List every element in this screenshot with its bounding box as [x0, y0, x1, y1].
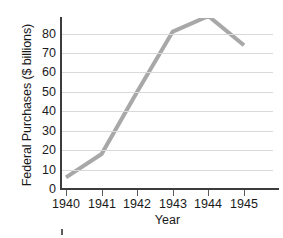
y-tick-label-50: 50: [2, 86, 56, 98]
y-axis-line: [60, 17, 62, 190]
gridline-20: [62, 150, 273, 151]
x-tick-1942: [137, 190, 138, 196]
x-tick-label-1945: 1945: [222, 197, 266, 211]
y-tick-label-10: 10: [2, 164, 56, 176]
line-chart-figure: Federal Purchases ($ billions) 010203040…: [0, 0, 283, 238]
y-tick-label-70: 70: [2, 47, 56, 59]
plot-area: [62, 18, 273, 189]
y-tick-label-40: 40: [2, 105, 56, 117]
gridline-60: [62, 72, 273, 73]
series-line-federal-purchases: [66, 18, 244, 177]
x-axis-title: Year: [62, 213, 273, 227]
y-tick-label-30: 30: [2, 125, 56, 137]
data-series-layer: [62, 18, 273, 189]
y-tick-label-60: 60: [2, 66, 56, 78]
x-tick-1944: [208, 190, 209, 196]
x-tick-1943: [173, 190, 174, 196]
gridline-30: [62, 131, 273, 132]
gridline-10: [62, 170, 273, 171]
gridline-80: [62, 34, 273, 35]
gridline-70: [62, 53, 273, 54]
y-tick-label-80: 80: [2, 28, 56, 40]
y-tick-label-0: 0: [2, 183, 56, 195]
stray-ink-mark: [61, 229, 63, 235]
gridline-50: [62, 92, 273, 93]
x-tick-1941: [102, 190, 103, 196]
y-tick-label-20: 20: [2, 144, 56, 156]
x-axis-line: [60, 188, 279, 190]
gridline-40: [62, 111, 273, 112]
x-tick-1940: [66, 190, 67, 196]
x-tick-1945: [244, 190, 245, 196]
